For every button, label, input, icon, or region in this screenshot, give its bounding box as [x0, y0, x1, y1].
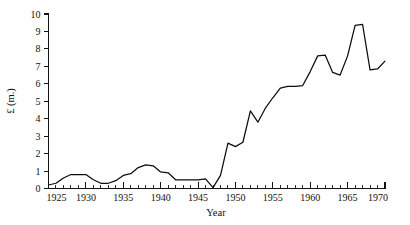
x-tick-label: 1950	[225, 192, 245, 203]
chart-figure: 012345678910 192519301935194019451950195…	[0, 0, 410, 225]
x-tick-label: 1935	[113, 192, 133, 203]
y-tick-label: 1	[36, 166, 41, 177]
x-axis-title: Year	[206, 207, 226, 218]
y-axis-tick-labels: 012345678910	[31, 9, 41, 195]
y-tick-label: 0	[36, 183, 41, 194]
y-tick-label: 3	[36, 131, 41, 142]
y-tick-label: 2	[36, 148, 41, 159]
y-axis-ticks	[44, 14, 49, 189]
x-tick-label: 1940	[151, 192, 171, 203]
x-tick-label: 1955	[263, 192, 283, 203]
y-tick-label: 9	[36, 26, 41, 37]
x-axis-tick-labels: 1925193019351940194519501955196019651970	[47, 192, 389, 203]
y-axis-title: £ (m.)	[5, 88, 17, 114]
x-tick-label: 1930	[76, 192, 96, 203]
line-chart: 012345678910 192519301935194019451950195…	[0, 0, 410, 225]
x-tick-label: 1945	[188, 192, 208, 203]
x-tick-label: 1970	[368, 192, 388, 203]
x-tick-label: 1965	[338, 192, 358, 203]
x-tick-label: 1960	[300, 192, 320, 203]
y-tick-label: 6	[36, 78, 41, 89]
x-tick-label: 1925	[47, 192, 67, 203]
y-tick-label: 7	[36, 61, 41, 72]
x-axis-minor-ticks	[56, 185, 378, 189]
y-tick-label: 4	[36, 113, 41, 124]
y-tick-label: 10	[31, 9, 41, 20]
x-axis: 1925193019351940194519501955196019651970	[47, 182, 389, 203]
data-series-line	[49, 24, 386, 187]
y-tick-label: 5	[36, 96, 41, 107]
y-tick-label: 8	[36, 43, 41, 54]
y-axis: 012345678910	[31, 9, 49, 195]
